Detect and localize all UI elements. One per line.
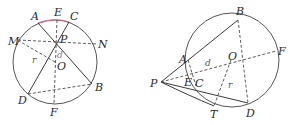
label-c: C (70, 10, 79, 23)
right-figure: B F A O d P E C r T D (149, 5, 286, 121)
label-e: E (183, 76, 192, 89)
secant-pd (161, 82, 248, 103)
label-p: P (59, 33, 68, 46)
label-d: d (57, 50, 63, 60)
label-r: r (32, 55, 37, 65)
label-t: T (210, 108, 219, 121)
label-o: O (57, 60, 66, 73)
label-b: B (94, 81, 103, 94)
label-d-point: D (245, 107, 255, 120)
label-n: N (97, 38, 108, 51)
label-o: O (228, 50, 237, 63)
segment-db (28, 84, 92, 94)
label-p: P (149, 77, 158, 90)
label-m: M (7, 35, 20, 48)
label-c: C (195, 77, 204, 90)
label-a: A (178, 53, 187, 66)
left-figure: A E C M P N r d O D B F (7, 6, 108, 119)
label-r: r (228, 80, 233, 90)
radius-om (19, 41, 55, 62)
label-b: B (235, 5, 244, 18)
label-d-point: D (17, 94, 27, 107)
label-f: F (277, 45, 286, 58)
geometry-diagram: A E C M P N r d O D B F B F A O d P E (0, 0, 290, 125)
secant-pb (161, 20, 238, 82)
label-a: A (30, 10, 39, 23)
label-d: d (205, 58, 211, 68)
segment-bd (238, 20, 248, 103)
label-f: F (49, 106, 58, 119)
label-e: E (53, 6, 62, 19)
